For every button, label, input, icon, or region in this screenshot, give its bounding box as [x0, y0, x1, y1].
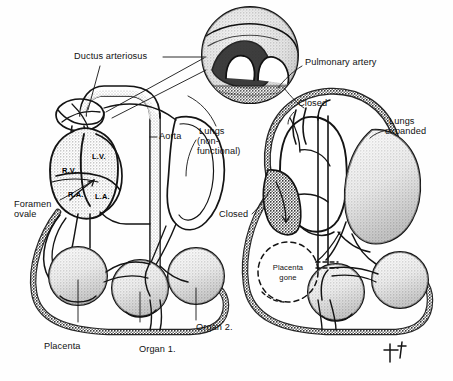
- label-closed-ductus: Closed: [298, 98, 327, 108]
- label-right-ventricle: R.V.: [62, 166, 77, 176]
- label-right-atrium: R.A.: [68, 190, 84, 200]
- label-lungs-nonfunctional-line1: Lungs: [199, 126, 225, 136]
- label-aorta: Aorta: [159, 131, 181, 141]
- label-placenta-gone-line2: gone: [261, 274, 315, 283]
- label-placenta: Placenta: [44, 341, 81, 351]
- ductus-arteriosus-inset: [106, 7, 304, 118]
- label-left-atrium: L.A.: [95, 192, 110, 202]
- label-foramen-ovale-line2: ovale: [14, 209, 36, 219]
- label-closed-foramen: Closed: [219, 209, 248, 219]
- label-foramen-ovale-line1: Foramen: [14, 199, 51, 209]
- label-lungs-expanded-line1: Lungs: [389, 116, 415, 126]
- label-lungs-nonfunctional-line2: (non-: [197, 136, 219, 146]
- label-left-ventricle: L.V.: [92, 152, 106, 162]
- label-placenta-gone-line1: Placenta: [261, 264, 315, 273]
- label-pulmonary-artery: Pulmonary artery: [305, 57, 377, 67]
- circulation-figure: Ductus arteriosus Aorta Lungs (non- func…: [0, 0, 453, 381]
- label-organ-1: Organ 1.: [139, 344, 176, 354]
- left-fetal-diagram: [33, 86, 226, 332]
- artist-signature: [384, 342, 406, 362]
- label-lungs-expanded-line2: expanded: [385, 126, 426, 136]
- label-lungs-nonfunctional-line3: functional): [197, 146, 241, 156]
- label-organ-2: Organ 2.: [196, 322, 233, 332]
- label-ductus-arteriosus: Ductus arteriosus: [74, 51, 147, 61]
